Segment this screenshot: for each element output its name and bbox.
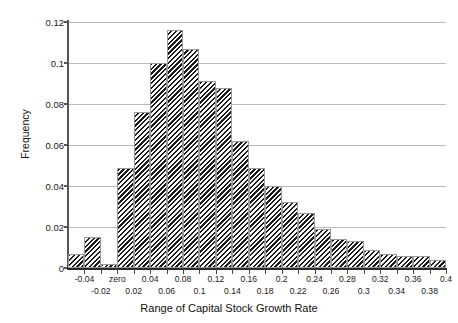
histogram-bar bbox=[150, 63, 166, 268]
y-axis-tick-label: 0.12 bbox=[28, 17, 64, 28]
x-axis-tick-label: 0.24 bbox=[306, 274, 323, 284]
x-axis-tick-label: 0.1 bbox=[193, 286, 205, 296]
x-axis-tick-label: -0.02 bbox=[91, 286, 111, 296]
histogram-bar bbox=[364, 250, 380, 268]
y-axis-tick-label: 0.04 bbox=[28, 181, 64, 192]
y-axis-tick-label: 0.08 bbox=[28, 99, 64, 110]
histogram-bar bbox=[117, 168, 133, 268]
histogram-figure: Frequency 00.020.040.060.080.10.12 -0.04… bbox=[0, 0, 458, 323]
x-axis-tick-label: 0.14 bbox=[224, 286, 241, 296]
x-axis-tick-label: 0.08 bbox=[175, 274, 192, 284]
x-axis-tick-label: 0.32 bbox=[372, 274, 389, 284]
plot-area bbox=[68, 22, 446, 268]
histogram-bar bbox=[331, 239, 347, 268]
x-axis-tick-label: 0.38 bbox=[421, 286, 438, 296]
x-axis-tick-label: 0.04 bbox=[142, 274, 159, 284]
x-axis-tick-label: -0.04 bbox=[75, 274, 95, 284]
x-axis-tick-label: 0.18 bbox=[257, 286, 274, 296]
histogram-bar bbox=[216, 88, 232, 268]
x-axis-tick-label: 0.2 bbox=[276, 274, 288, 284]
histogram-bar bbox=[265, 186, 281, 268]
x-axis-tick-label: 0.3 bbox=[358, 286, 370, 296]
x-axis-tick-label: 0.02 bbox=[125, 286, 142, 296]
histogram-bar bbox=[347, 241, 363, 268]
y-axis-tick-label: 0.02 bbox=[28, 222, 64, 233]
histogram-bar bbox=[397, 256, 413, 268]
histogram-bar bbox=[315, 229, 331, 268]
x-axis-tick-label: 0.12 bbox=[208, 274, 225, 284]
histogram-bar bbox=[167, 30, 183, 268]
histogram-bar bbox=[134, 112, 150, 268]
histogram-bar bbox=[298, 213, 314, 268]
histogram-bar bbox=[249, 168, 265, 268]
histogram-bar bbox=[380, 254, 396, 268]
x-axis-tick-label: 0.4 bbox=[440, 274, 452, 284]
histogram-bar bbox=[232, 141, 248, 268]
x-axis-tick-label: 0.34 bbox=[388, 286, 405, 296]
y-axis-tick-label: 0.06 bbox=[28, 140, 64, 151]
x-axis-tick-label: 0.26 bbox=[323, 286, 340, 296]
y-axis-tick-label: 0.1 bbox=[28, 58, 64, 69]
histogram-bar bbox=[413, 256, 429, 268]
x-axis-tick-label: 0.36 bbox=[405, 274, 422, 284]
histogram-bars bbox=[68, 22, 446, 268]
histogram-bar bbox=[68, 254, 84, 268]
histogram-bar bbox=[183, 49, 199, 268]
histogram-bar bbox=[84, 237, 100, 268]
x-axis-tick-label: 0.16 bbox=[240, 274, 257, 284]
x-axis-tick-label: 0.06 bbox=[158, 286, 175, 296]
x-axis-tick-label: 0.28 bbox=[339, 274, 356, 284]
histogram-bar bbox=[199, 81, 215, 268]
histogram-bar bbox=[282, 202, 298, 268]
x-axis-tick-labels: -0.04-0.02zero0.020.040.060.080.10.120.1… bbox=[0, 272, 458, 306]
histogram-bar bbox=[430, 260, 446, 268]
x-axis-tick-label: zero bbox=[109, 274, 126, 284]
x-axis-tick-label: 0.22 bbox=[290, 286, 307, 296]
x-axis-title: Range of Capital Stock Growth Rate bbox=[0, 302, 458, 314]
